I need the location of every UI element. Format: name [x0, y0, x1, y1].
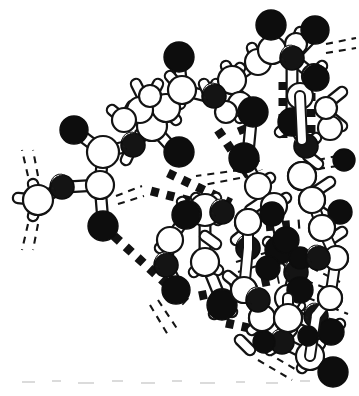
oxygen-atom: [229, 143, 259, 173]
oxygen-atom: [164, 137, 194, 167]
oxygen-atom: [88, 211, 118, 241]
oxygen-atom: [172, 201, 200, 229]
oxygen-atom: [162, 276, 190, 304]
nitrogen-atom: [202, 83, 226, 108]
carbon-atom: [191, 248, 219, 276]
carbon-atom: [112, 108, 136, 132]
oxygen-atom: [164, 42, 194, 72]
oxygen-atom: [318, 319, 344, 345]
carbon-atom: [87, 136, 119, 168]
oxygen-atom: [256, 10, 286, 40]
carbon-atom: [23, 185, 53, 215]
oxygen-atom: [318, 357, 348, 387]
carbon-atom: [318, 116, 342, 140]
nitrogen-atom: [50, 174, 74, 199]
nitrogen-atom: [121, 132, 145, 157]
carbon-atom: [86, 171, 114, 199]
oxygen-atom: [303, 65, 329, 91]
nitrogen-atom: [280, 45, 304, 70]
molecule-canvas: [0, 0, 359, 396]
carbon-atom: [139, 85, 161, 107]
carbon-atom: [168, 76, 196, 104]
oxygen-atom: [333, 149, 355, 171]
oxygen-atom: [60, 116, 88, 144]
carbon-atom: [315, 97, 337, 119]
carbon-atom: [157, 227, 183, 253]
oxygen-atom: [238, 97, 268, 127]
nitrogen-atom: [154, 252, 178, 277]
molecular-structure-figure: [0, 0, 359, 396]
nitrogen-atom: [210, 199, 234, 224]
oxygen-atom: [256, 256, 280, 280]
oxygen-atom: [301, 16, 329, 44]
